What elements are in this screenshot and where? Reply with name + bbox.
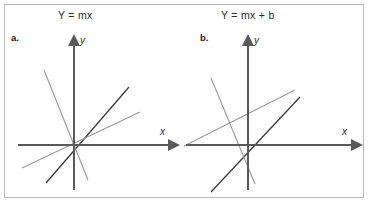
panel-a-x-axis-label: x	[160, 126, 165, 137]
panel-b-plot	[178, 0, 370, 206]
panel-b: b. Y = mx + b y x	[178, 0, 363, 206]
panel-b-title: Y = mx + b	[221, 9, 275, 21]
panel-a: a. Y = mx y x	[0, 0, 185, 206]
panel-b-x-axis-label: x	[342, 126, 347, 137]
panel-a-plot	[0, 0, 185, 206]
panel-a-axes	[18, 44, 170, 190]
panel-b-lines	[184, 78, 300, 192]
panel-a-y-axis-label: y	[80, 35, 85, 46]
panel-a-lines	[22, 70, 140, 183]
panel-b-axes	[186, 44, 353, 190]
line-steep-positive	[46, 87, 129, 183]
line-shallow-positive-intercept	[184, 90, 295, 146]
panel-a-letter: a.	[11, 32, 19, 43]
line-steep-negative	[44, 70, 88, 180]
figure-root: a. Y = mx y x	[0, 0, 370, 206]
panel-b-y-axis-label: y	[254, 35, 259, 46]
panel-b-letter: b.	[200, 32, 208, 43]
line-shallow-positive	[22, 112, 140, 168]
panel-a-title: Y = mx	[58, 9, 93, 21]
